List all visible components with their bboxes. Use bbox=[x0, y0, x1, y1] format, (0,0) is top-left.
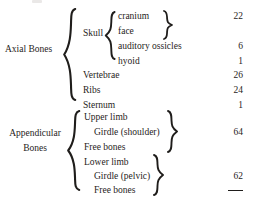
group-label-appendicular-line1: Appendicular bbox=[4, 128, 66, 139]
row-upper-limb: Upper limb bbox=[84, 112, 128, 123]
count-auditory-ossicles: 6 bbox=[221, 41, 243, 52]
row-sternum: Sternum bbox=[83, 100, 115, 111]
row-ribs: Ribs bbox=[83, 85, 100, 96]
row-free-bones-lower: Free bones bbox=[94, 185, 135, 196]
count-upper-limb-group: 64 bbox=[221, 127, 243, 138]
count-hyoid: 1 bbox=[221, 56, 243, 67]
group-label-axial: Axial Bones bbox=[5, 44, 52, 55]
group-label-appendicular-line2: Bones bbox=[4, 143, 66, 154]
count-vertebrae: 26 bbox=[221, 70, 243, 81]
row-girdle-shoulder: Girdle (shoulder) bbox=[94, 127, 160, 138]
count-cranium-face: 22 bbox=[221, 11, 243, 22]
cranium-face-closing-brace bbox=[162, 10, 174, 40]
sum-rule bbox=[228, 190, 243, 191]
row-auditory-ossicles: auditory ossicles bbox=[118, 41, 182, 52]
bone-classification-diagram: Axial Bones Skull cranium face auditory … bbox=[0, 0, 255, 199]
row-cranium: cranium bbox=[118, 11, 149, 22]
appendicular-group-brace bbox=[66, 110, 82, 192]
row-girdle-pelvic: Girdle (pelvic) bbox=[94, 171, 150, 182]
count-sternum: 1 bbox=[221, 100, 243, 111]
count-lower-limb-group: 62 bbox=[221, 171, 243, 182]
subgroup-label-skull: Skull bbox=[83, 28, 103, 39]
skull-brace bbox=[104, 11, 117, 60]
row-face: face bbox=[118, 26, 134, 37]
scan-artifact bbox=[32, 0, 42, 3]
row-lower-limb: Lower limb bbox=[84, 157, 129, 168]
row-hyoid: hyoid bbox=[118, 56, 140, 67]
axial-group-brace bbox=[62, 8, 78, 102]
lower-limb-closing-brace bbox=[152, 154, 165, 196]
row-vertebrae: Vertebrae bbox=[83, 70, 119, 81]
row-free-bones-upper: Free bones bbox=[84, 142, 125, 153]
upper-limb-closing-brace bbox=[166, 110, 179, 153]
count-ribs: 24 bbox=[221, 85, 243, 96]
